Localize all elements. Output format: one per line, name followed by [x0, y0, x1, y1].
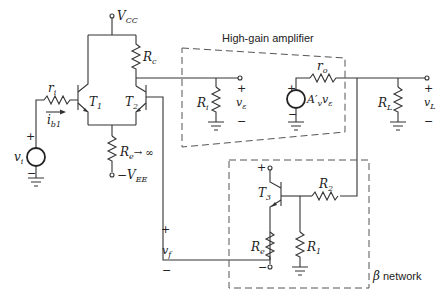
- av-minus: −: [288, 109, 297, 120]
- vl-minus: −: [424, 116, 433, 127]
- veps-sub: ε: [242, 102, 246, 111]
- t2-sub: 2: [133, 102, 138, 111]
- veps-plus: +: [237, 83, 246, 94]
- vl-plus: +: [424, 83, 433, 94]
- ib1-label: ib1: [47, 114, 61, 129]
- av-plus: +: [287, 83, 296, 94]
- re-tail-main: R: [120, 145, 129, 159]
- re-tail-label: Re→ ∞: [120, 146, 154, 161]
- vl-sub: L: [430, 102, 435, 111]
- av-tail-sub: ε: [328, 99, 332, 108]
- ri-sub: i: [206, 103, 209, 112]
- r2-sub: 2: [328, 184, 333, 193]
- r1-sub: 1: [316, 247, 321, 256]
- veps-label: vε: [236, 97, 247, 111]
- vee-main: −V: [117, 168, 136, 182]
- vf-plus: +: [161, 224, 170, 235]
- re-beta-main: R: [251, 240, 260, 254]
- t2-label: T2: [125, 96, 138, 111]
- ro-label: ro: [317, 60, 328, 75]
- av-main: A′: [307, 93, 317, 106]
- t1-main: T: [89, 95, 97, 109]
- ri-label: Ri: [197, 97, 209, 112]
- vee-sub: EE: [136, 175, 148, 184]
- vee-terminal: [110, 173, 114, 177]
- rc-main: R: [143, 50, 152, 64]
- r2-resistor: [312, 192, 338, 200]
- ro-resistor: [310, 74, 425, 82]
- vl-terminal: [425, 76, 429, 80]
- rl-main: R: [378, 96, 387, 110]
- re-tail-suffix: → ∞: [134, 147, 154, 158]
- vcc-label: VCC: [117, 10, 138, 25]
- r1-main: R: [307, 240, 316, 254]
- vi-main: v: [14, 150, 21, 164]
- beta-symbol: β: [373, 270, 380, 282]
- vcc-terminal: [110, 14, 114, 18]
- ri-small-sub: i: [54, 88, 57, 97]
- vcc-sub: CC: [126, 16, 138, 25]
- vf-minus: −: [162, 265, 171, 276]
- t3-main: T: [258, 186, 266, 200]
- t3-plus: +: [257, 162, 266, 173]
- re-beta-minus: −: [258, 262, 267, 273]
- ri-resistor: [208, 87, 224, 130]
- ri-small-resistor: [44, 96, 78, 104]
- re-beta-sub: e: [260, 247, 265, 256]
- r2-main: R: [319, 177, 328, 191]
- rl-sub: L: [387, 103, 392, 112]
- vi-label: vi: [14, 151, 23, 166]
- schematic-wires: [0, 0, 448, 306]
- veps-minus: −: [237, 116, 246, 127]
- r1-label: R1: [307, 241, 321, 256]
- t3-sub: 3: [266, 193, 271, 202]
- vi-source: [27, 148, 45, 166]
- vi-sub: i: [21, 157, 24, 166]
- t2-main: T: [125, 95, 133, 109]
- t1-sub: 1: [97, 102, 102, 111]
- rl-label: RL: [378, 97, 392, 112]
- av-label: A′vvε: [307, 94, 333, 108]
- beta-network-label: network: [383, 270, 422, 282]
- circuit-diagram: VCC Rc ri ib1 T1 T2 + − vi Re→ ∞ −VEE Hi…: [0, 0, 448, 306]
- rl-resistor: [390, 87, 406, 130]
- beta-network-box: [229, 160, 369, 288]
- transistor-t1: [78, 80, 88, 125]
- vf-sub: f: [168, 250, 171, 259]
- ib1-sub: b1: [51, 120, 61, 129]
- transistor-t3: [268, 166, 281, 260]
- re-beta-label: Re: [251, 241, 265, 256]
- re-tail-resistor: [108, 136, 116, 172]
- r2-label: R2: [319, 178, 333, 193]
- t1-label: T1: [89, 96, 102, 111]
- rc-resistor: [132, 35, 140, 78]
- vi-plus: +: [26, 131, 35, 142]
- r1-resistor: [292, 232, 308, 275]
- ro-sub: o: [323, 66, 328, 75]
- ri-main: R: [197, 96, 206, 110]
- vee-label: −VEE: [117, 169, 147, 184]
- t3-label: T3: [258, 187, 271, 202]
- vl-label: vL: [424, 97, 436, 111]
- ri-small-label: ri: [48, 82, 56, 97]
- vcc-main: V: [117, 9, 126, 23]
- rc-label: Rc: [143, 51, 157, 66]
- vf-label: vf: [162, 245, 171, 259]
- high-gain-amplifier-label: High-gain amplifier: [222, 32, 314, 44]
- rc-sub: c: [152, 57, 156, 66]
- vi-minus: −: [27, 168, 36, 179]
